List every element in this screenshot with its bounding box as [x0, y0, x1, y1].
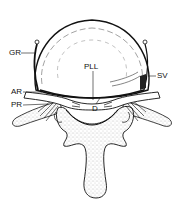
label-pll: PLL: [84, 63, 98, 71]
label-ar: AR: [11, 88, 22, 96]
intervertebral-disc: [34, 20, 149, 98]
vertebral-arch: [13, 101, 172, 198]
label-sv: SV: [157, 72, 168, 80]
label-gr: GR: [9, 49, 21, 57]
label-pr: PR: [11, 101, 22, 109]
vertebra-diagram: [0, 0, 184, 202]
label-d: D: [92, 105, 98, 113]
